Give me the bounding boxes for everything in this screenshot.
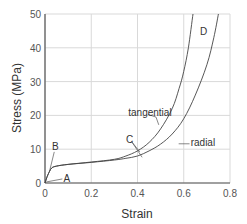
x-tick-label: 0.4 [131, 188, 145, 199]
x-axis-label: Strain [121, 207, 152, 221]
x-tick-label: 0.8 [223, 188, 237, 199]
series-tangential-line [45, 14, 193, 183]
annotation-leaders [46, 114, 189, 182]
y-tick-label: 30 [30, 77, 42, 88]
data-series [45, 14, 218, 183]
x-tick-labels: 00.20.40.60.8 [42, 188, 237, 199]
y-tick-label: 10 [30, 144, 42, 155]
annotation-tangential: tangential [128, 107, 171, 118]
y-axis-label: Stress (MPa) [10, 63, 24, 133]
grid-lines [45, 14, 230, 183]
annotation-d: D [200, 26, 207, 37]
annotation-a: A [64, 173, 71, 184]
y-tick-label: 40 [30, 43, 42, 54]
y-tick-label: 20 [30, 110, 42, 121]
x-tick-label: 0.6 [177, 188, 191, 199]
leader-line [156, 117, 159, 125]
stress-strain-chart: 00.20.40.60.8 01020304050 ABCDtangential… [0, 0, 247, 224]
annotation-c: C [126, 134, 133, 145]
leader-line [46, 179, 62, 182]
x-tick-label: 0 [42, 188, 48, 199]
series-radial-line [45, 14, 218, 183]
annotation-b: B [52, 141, 59, 152]
annotation-radial: radial [191, 137, 215, 148]
y-tick-labels: 01020304050 [30, 9, 42, 189]
y-tick-label: 0 [35, 178, 41, 189]
x-tick-label: 0.2 [84, 188, 98, 199]
y-tick-label: 50 [30, 9, 42, 20]
